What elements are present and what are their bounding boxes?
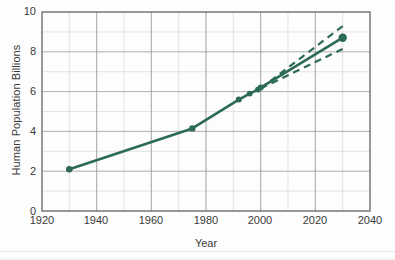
data-point-2000: [258, 85, 264, 91]
plot-area: [0, 0, 395, 260]
data-point-1930: [66, 166, 73, 173]
chart-figure: Human Population Billions Year 10 8 6 4 …: [0, 0, 395, 260]
data-point-1992: [236, 97, 242, 103]
scan-artifact-line: [0, 251, 395, 252]
data-point-1975: [189, 125, 195, 131]
data-point-1996: [247, 91, 253, 97]
series-low-projection: [261, 49, 343, 89]
data-point-2030: [339, 34, 347, 42]
